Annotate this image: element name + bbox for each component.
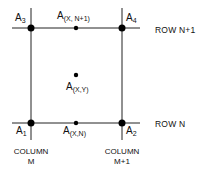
label-a2: A2 bbox=[126, 126, 137, 139]
column-m1-line1: COLUMN bbox=[102, 147, 142, 157]
label-a-x-n-plus-1: A(X, N+1) bbox=[57, 11, 90, 24]
label-a4: A4 bbox=[126, 13, 137, 26]
point-a-x-n-plus-1 bbox=[74, 26, 78, 30]
label-a3: A3 bbox=[15, 13, 26, 26]
point-a3 bbox=[28, 25, 35, 32]
label-a-x-y: A(X,Y) bbox=[66, 82, 89, 95]
point-a1 bbox=[28, 120, 35, 127]
column-m1-line2: M+1 bbox=[102, 157, 142, 167]
label-row-n: ROW N bbox=[155, 119, 185, 129]
point-a4 bbox=[119, 25, 126, 32]
column-m-line1: COLUMN bbox=[11, 147, 51, 157]
label-row-n-plus-1: ROW N+1 bbox=[155, 25, 195, 35]
label-column-m-plus-1: COLUMN M+1 bbox=[102, 147, 142, 167]
label-column-m: COLUMN M bbox=[11, 147, 51, 167]
point-a-x-n bbox=[74, 121, 78, 125]
label-a1: A1 bbox=[16, 126, 27, 139]
point-a-x-y bbox=[74, 73, 78, 77]
label-a-x-n: A(X,N) bbox=[63, 126, 86, 139]
column-m-line2: M bbox=[11, 157, 51, 167]
point-a2 bbox=[119, 120, 126, 127]
